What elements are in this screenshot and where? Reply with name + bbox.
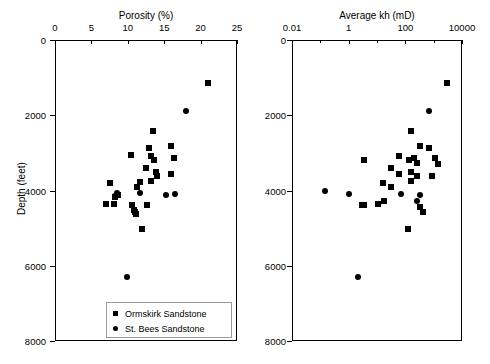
data-point-square <box>408 178 414 184</box>
data-point-square <box>381 198 387 204</box>
data-point-square <box>361 157 367 163</box>
data-point-square <box>429 173 435 179</box>
y-tick-label-2000: 2000 <box>244 110 286 121</box>
y-tick-mark <box>287 40 292 41</box>
data-point-square <box>405 226 411 232</box>
data-point-square <box>435 161 441 167</box>
x-tick-mark <box>292 40 293 44</box>
data-point-square <box>375 201 381 207</box>
y-tick-label-0: 0 <box>244 35 286 46</box>
y-tick-label-6000: 6000 <box>244 260 286 271</box>
x-tick-label: 1 <box>346 22 351 33</box>
kh-plot-area <box>292 40 462 341</box>
data-point-square <box>406 157 412 163</box>
x-tick-label: 0.01 <box>283 22 302 33</box>
x-tick-label: 100 <box>397 22 413 33</box>
y-tick-mark <box>287 115 292 116</box>
x-tick-label: 10000 <box>449 22 475 33</box>
x-tick-minor-mark <box>320 40 321 43</box>
data-point-square <box>380 180 386 186</box>
data-point-square <box>388 165 394 171</box>
x-tick-minor-mark <box>377 40 378 43</box>
x-tick-mark <box>349 40 350 44</box>
y-tick-mark <box>287 191 292 192</box>
data-point-square <box>420 209 426 215</box>
y-tick-label-4000: 4000 <box>244 185 286 196</box>
y-tick-mark <box>287 266 292 267</box>
data-point-square <box>444 80 450 86</box>
data-point-square <box>396 171 402 177</box>
data-point-square <box>388 184 394 190</box>
y-tick-label-8000: 8000 <box>244 336 286 347</box>
data-point-square <box>414 160 420 166</box>
figure-scatter-depth-panels: Porosity (%) 0510152025 0200040006000800… <box>0 0 490 364</box>
x-tick-mark <box>405 40 406 44</box>
data-point-square <box>426 145 432 151</box>
data-point-circle <box>398 191 404 197</box>
data-point-square <box>408 128 414 134</box>
data-point-square <box>417 143 423 149</box>
kh-axis-title: Average kh (mD) <box>292 10 462 21</box>
y-tick-mark <box>287 341 292 342</box>
data-point-circle <box>346 191 352 197</box>
data-point-circle <box>417 192 423 198</box>
data-point-square <box>414 173 420 179</box>
data-point-square <box>361 202 367 208</box>
panel-average-kh: Average kh (mD) 0.01110010000 8000020004… <box>0 0 490 364</box>
x-tick-minor-mark <box>434 40 435 43</box>
data-point-square <box>396 153 402 159</box>
x-tick-mark <box>462 40 463 44</box>
